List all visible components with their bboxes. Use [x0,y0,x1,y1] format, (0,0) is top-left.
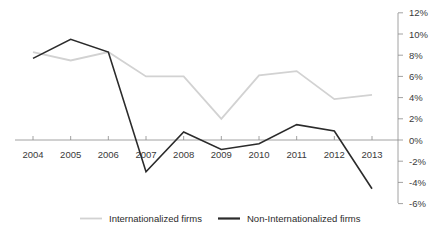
series-line-internationalized [33,52,372,119]
series-line-non-internationalized [33,39,372,188]
x-tick-label: 2011 [286,149,306,160]
y-axis: 12%10%8%6%4%2%0%-2%-4%-6% [398,7,429,209]
x-tick-label: 2004 [22,149,43,160]
x-tick-label: 2010 [248,149,269,160]
y-tick-label: 4% [409,92,423,103]
y-tick-label: -4% [409,177,426,188]
y-tick-label: 12% [409,7,429,18]
y-tick-label: 6% [409,71,423,82]
line-chart: 2004200520062007200820092010201120122013… [0,0,448,235]
x-tick-label: 2013 [361,149,382,160]
y-tick-label: 10% [409,29,429,40]
x-tick-label: 2012 [324,149,345,160]
y-axis-ticks [398,13,403,204]
legend-label: Non-Internationalized firms [247,213,361,224]
y-axis-tick-labels: 12%10%8%6%4%2%0%-2%-4%-6% [409,7,429,209]
chart-canvas: 2004200520062007200820092010201120122013… [0,0,448,235]
chart-legend: Internationalized firmsNon-International… [80,213,361,224]
y-tick-label: 2% [409,113,423,124]
legend-label: Internationalized firms [109,213,202,224]
y-tick-label: -2% [409,156,426,167]
x-tick-label: 2005 [60,149,81,160]
series-group [33,39,372,188]
x-tick-label: 2009 [211,149,232,160]
x-axis-ticks [33,136,372,140]
y-tick-label: 0% [409,135,423,146]
x-tick-label: 2008 [173,149,194,160]
y-tick-label: -6% [409,198,426,209]
x-tick-label: 2006 [98,149,119,160]
x-axis-tick-labels: 2004200520062007200820092010201120122013 [22,149,382,160]
y-tick-label: 8% [409,50,423,61]
